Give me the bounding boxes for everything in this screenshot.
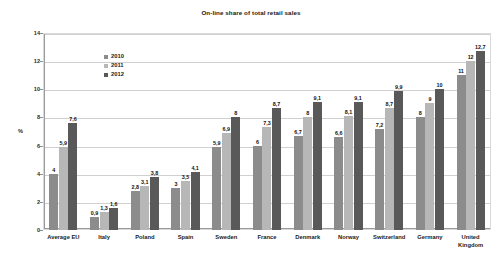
- chart-title: On-line share of total retail sales: [0, 9, 502, 16]
- bar-value-label: 2,8: [131, 184, 139, 190]
- x-tick-label: United Kingdom: [450, 233, 491, 249]
- bar-value-label: 6,6: [335, 130, 343, 136]
- bar-value-label: 1,3: [100, 205, 108, 211]
- bar-2010[interactable]: 11: [457, 75, 466, 230]
- bar-2012[interactable]: 12,7: [476, 51, 485, 230]
- bar-2011[interactable]: 8: [303, 117, 312, 230]
- x-tick-label: Switzerland: [369, 233, 410, 241]
- bar-group: 2,83,13,8: [124, 33, 165, 230]
- bar-value-label: 7,6: [69, 116, 77, 122]
- x-tick-label: Spain: [165, 233, 206, 241]
- bar-group: 111212,7: [450, 33, 491, 230]
- x-axis-labels: Average EUItalyPolandSpainSwedenFranceDe…: [43, 233, 491, 265]
- bar-2011[interactable]: 7,3: [262, 127, 271, 230]
- bar-series-layer: 45,97,60,91,31,62,83,13,833,54,15,96,986…: [43, 33, 491, 230]
- bar-group: 6,68,19,1: [328, 33, 369, 230]
- bar-value-label: 6: [256, 139, 259, 145]
- x-tick-label: France: [247, 233, 288, 241]
- bar-value-label: 4,1: [191, 165, 199, 171]
- bar-value-label: 8,7: [385, 101, 393, 107]
- bar-2011[interactable]: 6,9: [222, 133, 231, 230]
- y-axis-ticks: 02468101214: [20, 33, 40, 230]
- bar-2010[interactable]: 0,9: [90, 217, 99, 230]
- bar-value-label: 5,9: [60, 140, 68, 146]
- bar-group: 0,91,31,6: [84, 33, 125, 230]
- bar-value-label: 1,6: [110, 201, 118, 207]
- bar-value-label: 9,9: [395, 84, 403, 90]
- bar-2010[interactable]: 6: [253, 146, 262, 230]
- bar-2010[interactable]: 6,6: [334, 137, 343, 230]
- bar-2011[interactable]: 5,9: [59, 147, 68, 230]
- x-tick-label: Norway: [328, 233, 369, 241]
- bar-2011[interactable]: 9: [425, 103, 434, 230]
- bar-2012[interactable]: 8,7: [272, 108, 281, 230]
- bar-2010[interactable]: 2,8: [131, 191, 140, 230]
- bar-value-label: 12: [468, 54, 474, 60]
- bar-value-label: 8: [234, 110, 237, 116]
- x-tick-label: Denmark: [287, 233, 328, 241]
- bar-group: 6,789,1: [287, 33, 328, 230]
- x-tick-label: Italy: [84, 233, 125, 241]
- x-tick-label: Poland: [124, 233, 165, 241]
- bar-2012[interactable]: 10: [435, 89, 444, 230]
- bar-2012[interactable]: 3,8: [150, 177, 159, 230]
- x-tick-label: Germany: [410, 233, 451, 241]
- bar-value-label: 9,1: [354, 95, 362, 101]
- bar-group: 5,96,98: [206, 33, 247, 230]
- bar-value-label: 6,9: [223, 126, 231, 132]
- bar-group: 8910: [410, 33, 451, 230]
- bar-2010[interactable]: 4: [49, 174, 58, 230]
- bar-value-label: 6,7: [294, 129, 302, 135]
- bar-value-label: 3: [174, 181, 177, 187]
- bar-2010[interactable]: 3: [171, 188, 180, 230]
- bar-2011[interactable]: 8,1: [344, 116, 353, 230]
- bar-2012[interactable]: 8: [231, 117, 240, 230]
- bar-value-label: 10: [436, 82, 442, 88]
- bar-group: 33,54,1: [165, 33, 206, 230]
- bar-value-label: 8: [306, 110, 309, 116]
- x-tick-label: Sweden: [206, 233, 247, 241]
- bar-2011[interactable]: 1,3: [100, 212, 109, 230]
- bar-value-label: 7,3: [263, 120, 271, 126]
- bar-group: 45,97,6: [43, 33, 84, 230]
- bar-2012[interactable]: 4,1: [191, 172, 200, 230]
- bar-group: 67,38,7: [247, 33, 288, 230]
- bar-2012[interactable]: 9,9: [394, 91, 403, 230]
- bar-value-label: 5,9: [213, 140, 221, 146]
- bar-value-label: 3,5: [182, 174, 190, 180]
- bar-2010[interactable]: 7,2: [375, 129, 384, 230]
- bar-value-label: 3,1: [141, 179, 149, 185]
- bar-value-label: 4: [52, 167, 55, 173]
- chart-container: On-line share of total retail sales % 02…: [0, 0, 502, 269]
- bar-2011[interactable]: 3,5: [181, 181, 190, 230]
- bar-group: 7,28,79,9: [369, 33, 410, 230]
- bar-2011[interactable]: 8,7: [385, 108, 394, 230]
- bar-value-label: 8,7: [273, 101, 281, 107]
- bar-value-label: 11: [458, 68, 464, 74]
- bar-2010[interactable]: 8: [416, 117, 425, 230]
- bar-value-label: 0,9: [91, 210, 99, 216]
- x-tick-label: Average EU: [43, 233, 84, 241]
- bar-2012[interactable]: 9,1: [313, 102, 322, 230]
- bar-value-label: 3,8: [151, 170, 159, 176]
- bar-value-label: 8,1: [345, 109, 353, 115]
- bar-value-label: 12,7: [475, 44, 486, 50]
- bar-value-label: 7,2: [376, 122, 384, 128]
- bar-value-label: 8: [419, 110, 422, 116]
- bar-value-label: 9,1: [314, 95, 322, 101]
- bar-2010[interactable]: 6,7: [294, 136, 303, 230]
- bar-2010[interactable]: 5,9: [212, 147, 221, 230]
- bar-2012[interactable]: 9,1: [354, 102, 363, 230]
- y-tick-mark: [40, 230, 43, 231]
- bar-2012[interactable]: 7,6: [68, 123, 77, 230]
- bar-2012[interactable]: 1,6: [109, 208, 118, 231]
- bar-2011[interactable]: 12: [466, 61, 475, 230]
- bar-2011[interactable]: 3,1: [140, 186, 149, 230]
- bar-value-label: 9: [428, 96, 431, 102]
